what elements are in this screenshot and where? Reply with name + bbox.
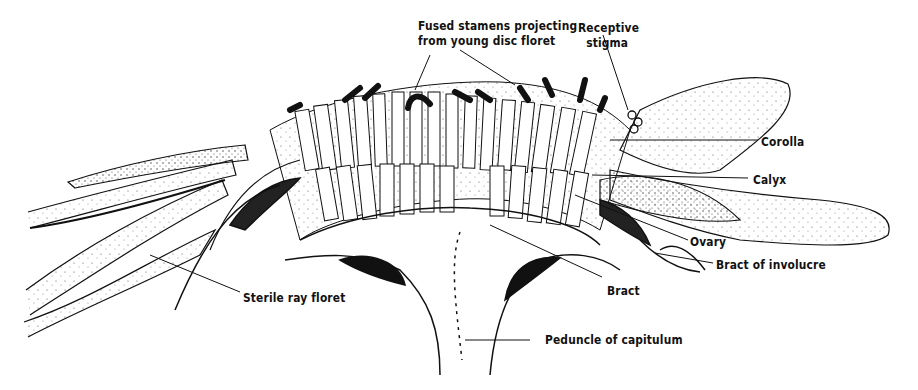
- label-receptive-stigma-line1: Receptive: [578, 20, 639, 35]
- disc-florets: [270, 82, 630, 240]
- label-receptive-stigma: Receptive stigma: [578, 20, 639, 50]
- label-fused-stamens-line1: Fused stamens projecting: [418, 18, 577, 33]
- label-corolla: Corolla: [761, 134, 804, 149]
- label-bract: Bract: [607, 283, 640, 298]
- label-fused-stamens-line2: from young disc floret: [418, 33, 577, 48]
- label-ovary: Ovary: [690, 234, 726, 249]
- label-peduncle: Peduncle of capitulum: [545, 332, 683, 347]
- label-fused-stamens: Fused stamens projecting from young disc…: [418, 18, 577, 48]
- capitulum-diagram: [0, 0, 918, 390]
- label-bract-of-involucre: Bract of involucre: [716, 257, 826, 272]
- label-calyx: Calyx: [753, 172, 786, 187]
- label-sterile-ray-floret: Sterile ray floret: [243, 290, 345, 305]
- right-ray-florets: [600, 78, 889, 245]
- label-receptive-stigma-line2: stigma: [578, 35, 639, 50]
